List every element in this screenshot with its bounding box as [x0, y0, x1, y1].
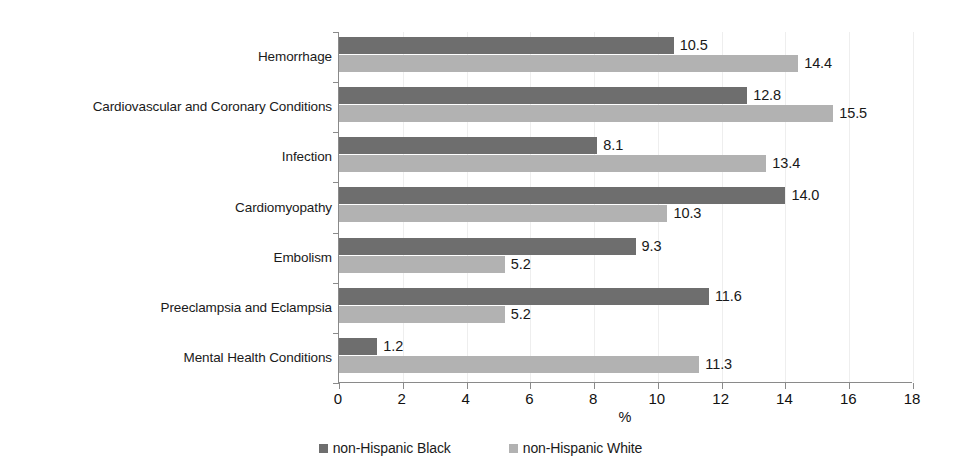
bar-non-hispanic-black — [339, 137, 597, 154]
gridline — [913, 32, 914, 382]
x-tick-label: 10 — [649, 390, 666, 407]
x-tick-mark — [785, 383, 786, 389]
category-label: Cardiomyopathy — [2, 200, 332, 215]
bar-non-hispanic-white — [339, 306, 505, 323]
bar-chart: HemorrhageCardiovascular and Coronary Co… — [0, 0, 961, 471]
category-label: Hemorrhage — [2, 49, 332, 64]
y-tick-mark — [333, 233, 339, 234]
x-tick-mark — [594, 383, 595, 389]
bar-value-label: 10.3 — [673, 205, 701, 222]
bar-value-label: 9.3 — [642, 238, 662, 255]
bar-group: 10.514.4 — [339, 32, 912, 82]
bar-non-hispanic-white — [339, 105, 833, 122]
bar-value-label: 5.2 — [511, 306, 531, 323]
legend-item[interactable]: non-Hispanic Black — [319, 440, 451, 456]
bar-group: 8.113.4 — [339, 132, 912, 182]
bar-non-hispanic-white — [339, 256, 505, 273]
bar-non-hispanic-white — [339, 55, 798, 72]
bar-value-label: 14.0 — [791, 187, 819, 204]
category-label: Preeclampsia and Eclampsia — [2, 300, 332, 315]
category-label: Embolism — [2, 250, 332, 265]
bar-value-label: 11.6 — [715, 288, 742, 305]
bar-group: 14.010.3 — [339, 182, 912, 232]
legend-item[interactable]: non-Hispanic White — [509, 440, 643, 456]
bar-value-label: 8.1 — [603, 137, 623, 154]
x-tick-label: 2 — [398, 390, 406, 407]
bar-non-hispanic-white — [339, 205, 667, 222]
category-label: Mental Health Conditions — [2, 350, 332, 365]
x-tick-label: 16 — [840, 390, 857, 407]
legend-swatch-icon — [509, 444, 518, 453]
bar-group: 9.35.2 — [339, 233, 912, 283]
bar-value-label: 10.5 — [680, 37, 708, 54]
x-tick-label: 6 — [525, 390, 533, 407]
legend-label: non-Hispanic Black — [333, 440, 451, 456]
bar-non-hispanic-black — [339, 187, 785, 204]
x-tick-mark — [658, 383, 659, 389]
bar-value-label: 12.8 — [753, 87, 781, 104]
y-axis-labels: HemorrhageCardiovascular and Coronary Co… — [0, 32, 332, 383]
legend-label: non-Hispanic White — [523, 440, 643, 456]
bar-non-hispanic-black — [339, 338, 377, 355]
x-tick-mark — [849, 383, 850, 389]
bar-value-label: 13.4 — [772, 155, 800, 172]
bar-non-hispanic-white — [339, 356, 699, 373]
bar-value-label: 5.2 — [511, 256, 531, 273]
x-tick-label: 8 — [589, 390, 597, 407]
y-tick-mark — [333, 283, 339, 284]
x-tick-mark — [339, 383, 340, 389]
bar-value-label: 14.4 — [804, 55, 832, 72]
category-label: Cardiovascular and Coronary Conditions — [2, 99, 332, 114]
x-tick-mark — [467, 383, 468, 389]
x-tick-label: 18 — [904, 390, 921, 407]
bar-value-label: 11.3 — [705, 356, 732, 373]
x-tick-mark — [403, 383, 404, 389]
x-tick-mark — [530, 383, 531, 389]
y-tick-mark — [333, 333, 339, 334]
x-tick-label: 4 — [461, 390, 469, 407]
bar-non-hispanic-white — [339, 155, 766, 172]
y-tick-mark — [333, 82, 339, 83]
bar-non-hispanic-black — [339, 87, 747, 104]
plot-area: 10.514.412.815.58.113.414.010.39.35.211.… — [338, 32, 912, 383]
x-axis-title: % — [338, 409, 912, 425]
bar-value-label: 15.5 — [839, 105, 867, 122]
x-tick-mark — [722, 383, 723, 389]
x-tick-label: 0 — [334, 390, 342, 407]
x-tick-label: 12 — [712, 390, 729, 407]
bar-group: 11.65.2 — [339, 283, 912, 333]
x-tick-mark — [913, 383, 914, 389]
legend-swatch-icon — [319, 444, 328, 453]
chart-legend: non-Hispanic Blacknon-Hispanic White — [0, 440, 961, 456]
x-tick-label: 14 — [776, 390, 793, 407]
y-tick-mark — [333, 182, 339, 183]
bar-non-hispanic-black — [339, 238, 636, 255]
category-label: Infection — [2, 149, 332, 164]
bar-group: 12.815.5 — [339, 82, 912, 132]
y-tick-mark — [333, 132, 339, 133]
bar-non-hispanic-black — [339, 288, 709, 305]
bar-value-label: 1.2 — [383, 338, 403, 355]
bar-non-hispanic-black — [339, 37, 674, 54]
y-tick-mark — [333, 32, 339, 33]
bar-group: 1.211.3 — [339, 333, 912, 383]
